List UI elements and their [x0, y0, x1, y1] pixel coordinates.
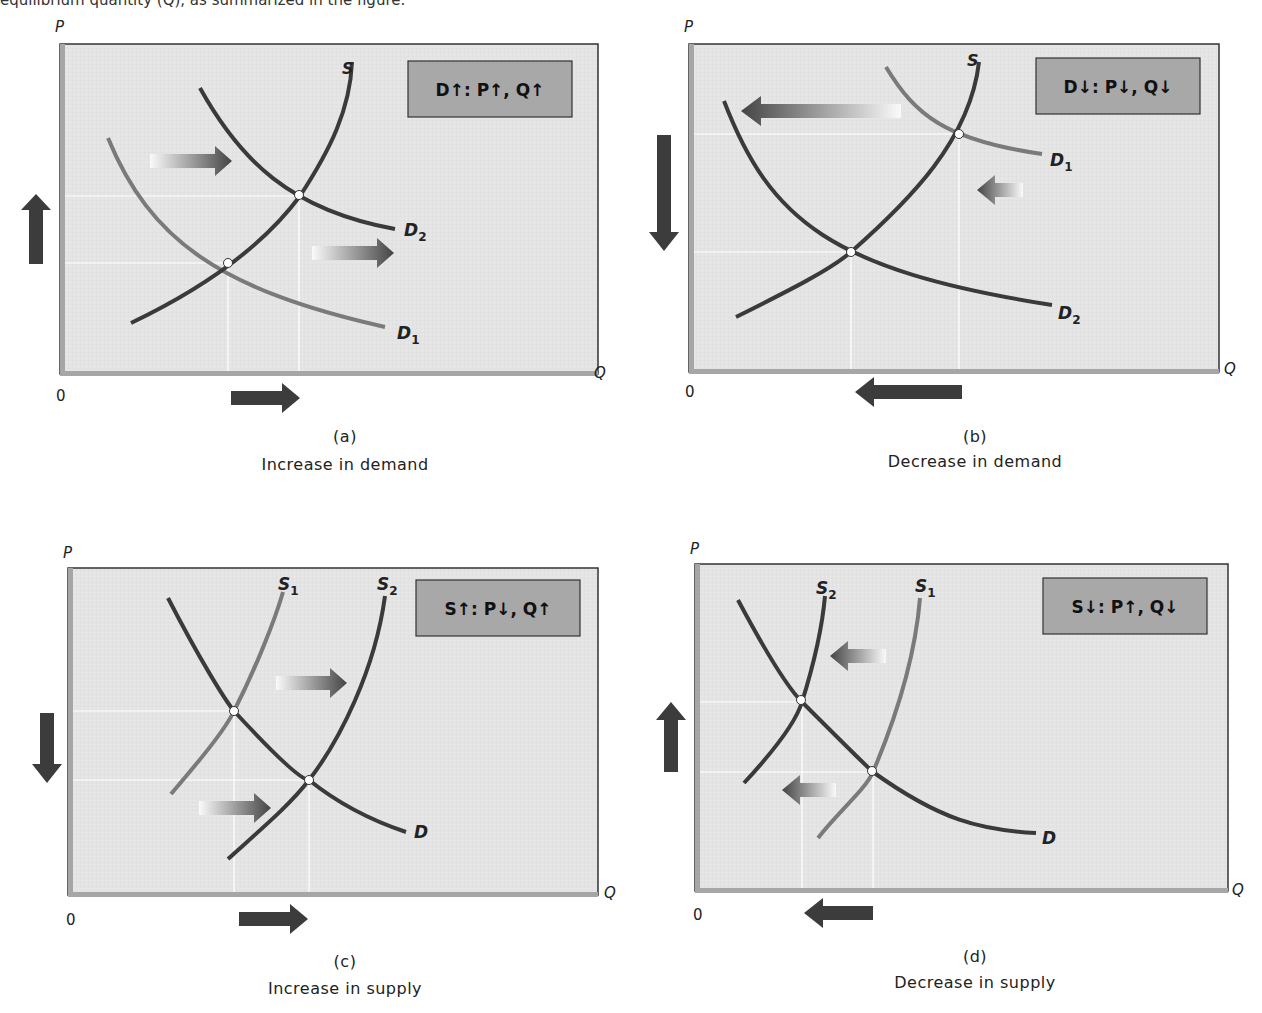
x-axis-label: Q: [604, 884, 616, 902]
chart-d-svg: P Q 0 S↓: P↑, Q↓ S2 S1 D: [640, 530, 1262, 1013]
chart-c-svg: P Q 0 S↑: P↓, Q↑ S1 S2 D: [0, 530, 640, 1013]
panel-title: Decrease in demand: [760, 452, 1190, 471]
x-axis-label: Q: [1232, 881, 1244, 899]
price-down-arrow: [649, 135, 679, 251]
quantity-left-arrow: [804, 898, 873, 928]
y-axis-label: P: [690, 540, 700, 558]
summary-text: S↓: P↑, Q↓: [1072, 597, 1179, 617]
equilibrium-point-2: [847, 248, 856, 257]
curve-label-s: S: [967, 51, 979, 70]
panel-label: (b): [760, 427, 1190, 446]
curve-label-d: D: [414, 822, 428, 842]
panel-label: (d): [760, 947, 1190, 966]
summary-text: D↑: P↑, Q↑: [436, 80, 545, 100]
summary-text: D↓: P↓, Q↓: [1064, 77, 1173, 97]
origin-label: 0: [693, 906, 703, 924]
equilibrium-point-1: [230, 707, 239, 716]
equilibrium-point-1: [224, 259, 233, 268]
x-axis-label: Q: [1224, 360, 1236, 378]
chart-panel-decrease-supply: P Q 0 S↓: P↑, Q↓ S2 S1 D (d) Decrease in…: [640, 530, 1262, 1013]
origin-label: 0: [66, 911, 76, 929]
equilibrium-point-2: [305, 776, 314, 785]
y-axis: [689, 44, 694, 374]
x-axis: [60, 371, 598, 376]
curve-label-s: S: [342, 59, 354, 78]
chart-panel-decrease-demand: P Q 0 D↓: P↓, Q↓ S D1 D2 (b) Decrease in…: [640, 0, 1262, 480]
y-axis-label: P: [63, 544, 73, 562]
quantity-left-arrow: [855, 377, 962, 407]
chart-panel-increase-supply: P Q 0 S↑: P↓, Q↑ S1 S2 D (c) Increase in…: [0, 530, 640, 1013]
y-axis: [695, 564, 700, 893]
quantity-right-arrow: [239, 904, 308, 934]
panel-label: (c): [130, 952, 560, 971]
chart-b-svg: P Q 0 D↓: P↓, Q↓ S D1 D2: [640, 0, 1262, 480]
quantity-right-arrow: [231, 383, 300, 413]
panel-title: Increase in demand: [130, 455, 560, 474]
summary-text: S↑: P↓, Q↑: [445, 599, 552, 619]
y-axis: [68, 568, 73, 897]
x-axis: [68, 892, 598, 897]
equilibrium-point-2: [295, 191, 304, 200]
equilibrium-point-2: [868, 767, 877, 776]
y-axis: [60, 44, 65, 376]
equilibrium-point-1: [955, 130, 964, 139]
equilibrium-point-1: [797, 696, 806, 705]
x-axis: [695, 888, 1228, 893]
x-axis: [689, 369, 1219, 374]
y-axis-label: P: [55, 18, 65, 36]
panel-title: Decrease in supply: [760, 973, 1190, 992]
chart-panel-increase-demand: P Q 0 D↑: P↑, Q↑ S D1 D2 (a) Increase in…: [0, 0, 640, 480]
y-axis-label: P: [684, 18, 694, 36]
price-down-arrow: [32, 713, 62, 783]
chart-a-svg: P Q 0 D↑: P↑, Q↑ S D1 D2: [0, 0, 640, 480]
price-up-arrow: [21, 194, 51, 264]
price-up-arrow: [656, 702, 686, 772]
panel-label: (a): [130, 427, 560, 446]
origin-label: 0: [56, 387, 66, 405]
panel-title: Increase in supply: [130, 979, 560, 998]
x-axis-label: Q: [594, 364, 606, 382]
curve-label-d: D: [1042, 828, 1056, 848]
origin-label: 0: [685, 383, 695, 401]
